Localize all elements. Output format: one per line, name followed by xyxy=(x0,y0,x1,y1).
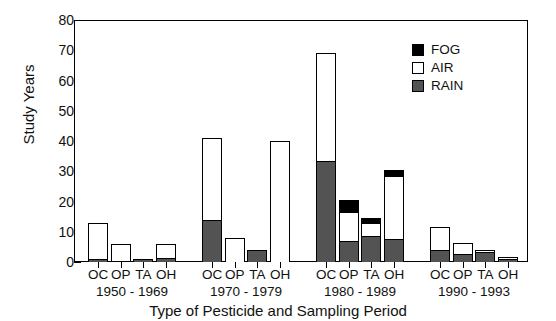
bar-segment-rain xyxy=(339,241,359,262)
x-category-label: OH xyxy=(376,268,412,282)
bar-segment-air xyxy=(430,227,450,250)
x-period-label: 1970 - 1979 xyxy=(186,285,306,299)
bar-segment-air xyxy=(225,238,245,262)
bar-segment-air xyxy=(156,244,176,259)
bar-segment-rain xyxy=(430,250,450,262)
bar-segment-rain xyxy=(361,236,381,262)
bar-1970-1979-TA xyxy=(247,250,267,262)
x-axis-title: Type of Pesticide and Sampling Period xyxy=(0,302,556,319)
bar-1980-1989-OC xyxy=(316,53,336,262)
bar-segment-air xyxy=(202,138,222,220)
y-tick-label: 20 xyxy=(40,195,74,209)
y-tick-label: 30 xyxy=(40,164,74,178)
bar-1980-1989-OH xyxy=(384,170,404,262)
y-tick-label: 60 xyxy=(40,74,74,88)
bar-1980-1989-TA xyxy=(361,218,381,262)
bar-segment-air xyxy=(361,223,381,237)
legend-swatch-air xyxy=(412,62,424,74)
legend-item-fog: FOG xyxy=(412,42,463,58)
x-period-label: 1950 - 1969 xyxy=(72,285,192,299)
bar-1950-1969-OC xyxy=(88,223,108,262)
bar-segment-rain xyxy=(247,250,267,262)
y-tick-label: 40 xyxy=(40,134,74,148)
x-category-label: OH xyxy=(490,268,526,282)
x-period-label: 1980 - 1989 xyxy=(300,285,420,299)
bar-1990-1993-OP xyxy=(453,243,473,262)
bar-1950-1969-OH xyxy=(156,244,176,262)
y-tick-label: 70 xyxy=(40,43,74,57)
chart-legend: FOGAIRRAIN xyxy=(412,42,463,94)
bar-segment-air xyxy=(111,244,131,261)
bar-segment-air xyxy=(316,53,336,160)
bar-segment-air xyxy=(270,141,290,262)
legend-swatch-fog xyxy=(412,44,424,56)
legend-label-air: AIR xyxy=(431,61,454,75)
x-period-label: 1990 - 1993 xyxy=(414,285,534,299)
y-tick-label: 50 xyxy=(40,104,74,118)
bar-segment-air xyxy=(339,212,359,241)
bar-1980-1989-OP xyxy=(339,200,359,262)
bar-1950-1969-OP xyxy=(111,244,131,262)
legend-swatch-rain xyxy=(412,80,424,92)
bar-1970-1979-OP xyxy=(225,238,245,262)
bar-1990-1993-TA xyxy=(475,250,495,262)
x-category-label: OH xyxy=(148,268,184,282)
pesticide-study-years-chart: Study Years 01020304050607080 OCOPTAOH19… xyxy=(0,0,556,321)
bar-1990-1993-OC xyxy=(430,227,450,262)
bar-segment-air xyxy=(453,243,473,254)
legend-label-fog: FOG xyxy=(431,43,460,57)
bar-segment-air xyxy=(384,176,404,240)
y-tick-label: 0 xyxy=(40,255,74,269)
bar-segment-rain xyxy=(384,239,404,262)
x-category-label: OH xyxy=(262,268,298,282)
bar-segment-rain xyxy=(316,161,336,262)
bar-segment-rain xyxy=(202,220,222,262)
bar-segment-rain xyxy=(475,252,495,262)
bar-segment-rain xyxy=(453,254,473,262)
legend-item-air: AIR xyxy=(412,60,463,76)
y-tick-label: 10 xyxy=(40,225,74,239)
bar-segment-fog xyxy=(339,200,359,212)
y-tick-label: 80 xyxy=(40,13,74,27)
bar-segment-air xyxy=(88,223,108,259)
y-tick-major xyxy=(74,262,81,263)
legend-item-rain: RAIN xyxy=(412,78,463,94)
bar-1970-1979-OC xyxy=(202,138,222,262)
bar-1970-1979-OH xyxy=(270,141,290,262)
legend-label-rain: RAIN xyxy=(431,79,463,93)
